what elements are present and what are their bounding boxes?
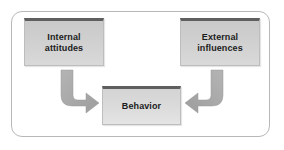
- node-external-influences: External influences: [180, 18, 260, 66]
- node-behavior: Behavior: [102, 86, 181, 125]
- node-internal-attitudes: Internal attitudes: [24, 18, 104, 66]
- node-external-influences-label: External influences: [197, 32, 243, 54]
- node-internal-attitudes-label: Internal attitudes: [45, 32, 83, 54]
- diagram-canvas: Internal attitudes External influences B…: [0, 0, 284, 150]
- node-behavior-label: Behavior: [122, 101, 161, 112]
